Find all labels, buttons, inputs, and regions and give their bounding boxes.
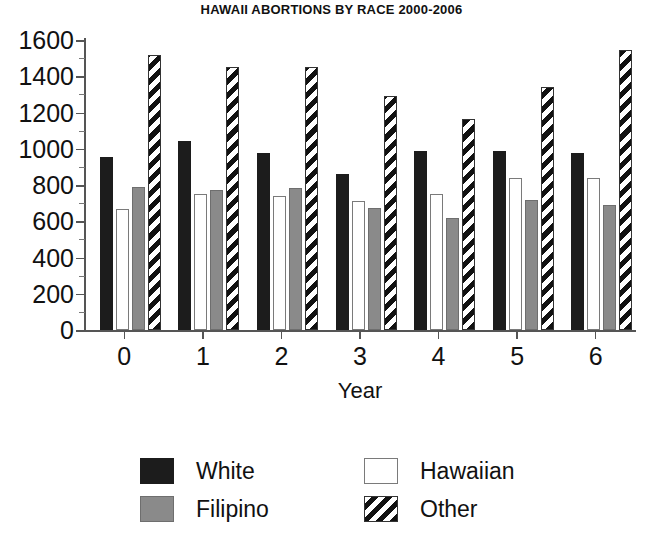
- y-tick-mark: [79, 94, 85, 95]
- legend-label-hawaiian: Hawaiian: [420, 460, 515, 483]
- y-tick-mark: [76, 113, 85, 115]
- legend-swatch-other: [364, 496, 398, 522]
- legend-swatch-white: [140, 458, 174, 484]
- legend-item-filipino[interactable]: Filipino: [140, 496, 336, 522]
- bar-other-year-3: [384, 96, 397, 330]
- bar-other-year-2: [305, 67, 318, 330]
- legend-item-white[interactable]: White: [140, 458, 336, 484]
- y-tick-mark: [79, 58, 85, 59]
- plot-area: 02004006008001000120014001600 0123456: [85, 40, 635, 330]
- x-tick-label: 0: [117, 344, 131, 369]
- bar-white-year-4: [414, 151, 427, 330]
- bar-other-year-0: [148, 55, 161, 331]
- y-tick-label: 0: [60, 318, 74, 343]
- bar-hawaiian-year-4: [430, 194, 443, 330]
- bar-filipino-year-5: [525, 200, 538, 331]
- y-tick-mark: [76, 40, 85, 42]
- bar-white-year-0: [100, 157, 113, 330]
- bar-filipino-year-1: [210, 190, 223, 330]
- x-tick-mark: [124, 330, 126, 339]
- y-tick-mark: [76, 330, 85, 332]
- legend-item-other[interactable]: Other: [364, 496, 560, 522]
- legend-label-filipino: Filipino: [196, 498, 269, 521]
- y-tick-mark: [76, 76, 85, 78]
- bar-white-year-3: [336, 174, 349, 330]
- y-tick-mark: [76, 185, 85, 187]
- y-tick-mark: [79, 312, 85, 313]
- x-tick-label: 4: [432, 344, 446, 369]
- bar-white-year-5: [493, 151, 506, 330]
- bar-filipino-year-0: [132, 187, 145, 330]
- x-axis-title: Year: [85, 378, 635, 404]
- x-tick-mark: [281, 330, 283, 339]
- x-tick-mark: [438, 330, 440, 339]
- x-tick-mark: [516, 330, 518, 339]
- bar-hawaiian-year-5: [509, 178, 522, 330]
- x-tick-label: 5: [510, 344, 524, 369]
- y-tick-label: 200: [32, 281, 74, 306]
- legend-swatch-filipino: [140, 496, 174, 522]
- bar-filipino-year-4: [446, 218, 459, 330]
- y-tick-mark: [79, 167, 85, 168]
- y-tick-label: 800: [32, 173, 74, 198]
- bar-other-year-5: [541, 87, 554, 330]
- x-tick-label: 2: [274, 344, 288, 369]
- x-tick-mark: [202, 330, 204, 339]
- bar-white-year-6: [571, 153, 584, 330]
- bar-filipino-year-2: [289, 188, 302, 330]
- bar-filipino-year-3: [368, 208, 381, 330]
- y-tick-mark: [79, 239, 85, 240]
- y-tick-label: 1600: [18, 28, 74, 53]
- x-tick-label: 1: [196, 344, 210, 369]
- x-tick-mark: [359, 330, 361, 339]
- y-tick-label: 1400: [18, 64, 74, 89]
- x-tick-mark: [595, 330, 597, 339]
- bar-other-year-4: [462, 119, 475, 330]
- bar-other-year-1: [226, 67, 239, 330]
- legend-swatch-hawaiian: [364, 458, 398, 484]
- bar-hawaiian-year-3: [352, 201, 365, 330]
- y-tick-mark: [76, 149, 85, 151]
- y-tick-label: 1200: [18, 100, 74, 125]
- y-tick-mark: [79, 276, 85, 277]
- y-tick-label: 1000: [18, 136, 74, 161]
- y-tick-mark: [76, 258, 85, 260]
- y-tick-label: 600: [32, 209, 74, 234]
- bar-filipino-year-6: [603, 205, 616, 330]
- bar-hawaiian-year-0: [116, 209, 129, 330]
- bar-hawaiian-year-2: [273, 196, 286, 330]
- y-tick-label: 400: [32, 245, 74, 270]
- bar-white-year-1: [178, 141, 191, 330]
- bar-other-year-6: [619, 50, 632, 330]
- x-tick-label: 3: [353, 344, 367, 369]
- legend-label-other: Other: [420, 498, 478, 521]
- y-tick-mark: [76, 221, 85, 223]
- bar-hawaiian-year-1: [194, 194, 207, 330]
- bar-white-year-2: [257, 153, 270, 330]
- y-tick-mark: [76, 294, 85, 296]
- chart-legend: WhiteFilipinoHawaiianOther: [140, 458, 560, 522]
- y-tick-mark: [79, 203, 85, 204]
- x-tick-label: 6: [589, 344, 603, 369]
- legend-item-hawaiian[interactable]: Hawaiian: [364, 458, 560, 484]
- legend-label-white: White: [196, 460, 255, 483]
- bar-hawaiian-year-6: [587, 178, 600, 330]
- y-tick-mark: [79, 131, 85, 132]
- chart-title: HAWAII ABORTIONS BY RACE 2000-2006: [0, 2, 663, 17]
